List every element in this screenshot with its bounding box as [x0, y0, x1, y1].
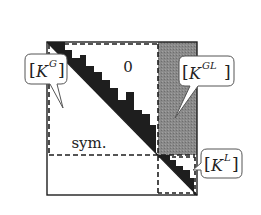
- svg-text:[: [: [29, 60, 36, 80]
- svg-text:]: ]: [58, 60, 65, 80]
- zero-label: 0: [123, 58, 133, 76]
- svg-text:[: [: [204, 154, 211, 174]
- svg-text:]: ]: [224, 62, 231, 82]
- svg-text:L: L: [223, 152, 231, 163]
- svg-text:K: K: [35, 62, 49, 81]
- svg-text:[: [: [182, 62, 189, 82]
- callout-kg: [ K G ]: [25, 54, 67, 108]
- svg-text:G: G: [49, 58, 57, 69]
- symmetric-label: sym.: [71, 134, 106, 152]
- svg-text:K: K: [188, 64, 202, 83]
- svg-text:GL: GL: [202, 60, 217, 71]
- callout-kl: [ K L ]: [193, 149, 242, 178]
- svg-text:]: ]: [232, 154, 239, 174]
- matrix-diagram: 0 sym. [ K G ] [ K GL ] [ K L ]: [0, 0, 261, 215]
- svg-text:K: K: [210, 156, 224, 175]
